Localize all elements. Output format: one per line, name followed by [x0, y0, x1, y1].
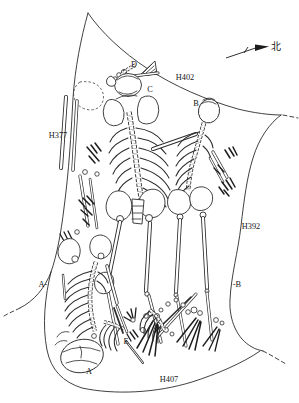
label-feature-h377: H377	[49, 131, 67, 140]
label-individual-d: D	[131, 60, 137, 69]
label-individual-a: A	[86, 367, 92, 376]
excavation-plan-figure: D H402 C B H377 H392 A- -B E A H407 北	[0, 0, 299, 403]
disturbed-bones-left	[60, 82, 104, 241]
label-feature-h392: H392	[242, 222, 260, 231]
north-arrow-icon	[226, 45, 269, 59]
north-label: 北	[271, 41, 281, 52]
label-section-b: -B	[233, 280, 242, 289]
site-plan-drawing: D H402 C B H377 H392 A- -B E A H407 北	[0, 0, 299, 403]
label-section-a: A-	[39, 280, 48, 289]
label-feature-h402: H402	[176, 73, 194, 82]
label-individual-e: E	[123, 337, 128, 346]
label-individual-b: B	[193, 99, 199, 108]
label-feature-h407: H407	[160, 375, 178, 384]
label-individual-c: C	[147, 85, 153, 94]
skeleton-a	[55, 235, 138, 377]
